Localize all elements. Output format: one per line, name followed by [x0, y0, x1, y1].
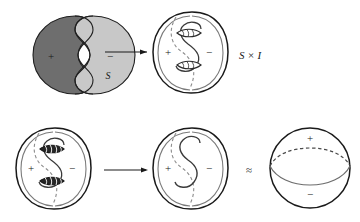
product-label: S × I — [239, 49, 262, 61]
sphere-minus-label: − — [307, 188, 313, 200]
surface-s-label: S — [106, 70, 111, 81]
sphere-plus-label: + — [307, 132, 313, 144]
top-arrow-head — [140, 49, 147, 54]
homeomorphic-symbol: ≈ — [246, 164, 252, 176]
sphere-plus-label: + — [28, 162, 34, 174]
sphere-minus-label: − — [206, 46, 212, 58]
sphere-minus-label: − — [69, 162, 75, 174]
plain-sphere-panel: + − — [270, 128, 350, 208]
light-lobe-region — [75, 16, 135, 94]
sphere-minus-label: − — [206, 162, 212, 174]
upper-band — [177, 29, 201, 37]
bottom-transform-arrow — [104, 167, 148, 172]
lower-band — [177, 61, 201, 69]
sphere-plus-label: + — [165, 162, 171, 174]
sphere-with-plain-curve-panel: + − — [153, 128, 228, 209]
upper-band-outline — [177, 29, 201, 37]
sphere-with-hatched-bands-panel: + − — [16, 128, 91, 209]
sphere-with-bands-panel: + − — [153, 12, 228, 93]
topology-figure: + − S + − — [0, 0, 360, 222]
lobe-plus-label: + — [48, 50, 54, 62]
sphere-plus-label: + — [165, 46, 171, 58]
bottom-arrow-head — [141, 167, 148, 172]
lower-band-outline — [177, 61, 201, 69]
shaded-lobes-panel: + − S — [33, 16, 135, 94]
